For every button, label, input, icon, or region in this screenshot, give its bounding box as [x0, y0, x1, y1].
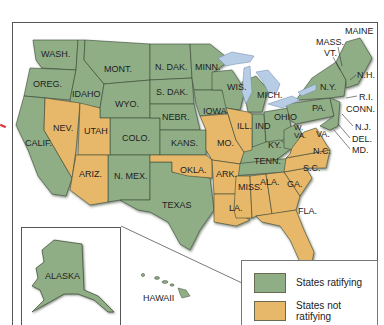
- legend-label-not-ratifying-1: States not: [296, 300, 341, 311]
- legend-label-not-ratifying-2: ratifying: [296, 311, 331, 322]
- legend: States ratifying States not ratifying: [241, 260, 378, 325]
- legend-swatch-not-ratifying: [254, 301, 286, 321]
- legend-swatch-ratifying: [254, 273, 286, 293]
- legend-label-ratifying: States ratifying: [296, 277, 362, 288]
